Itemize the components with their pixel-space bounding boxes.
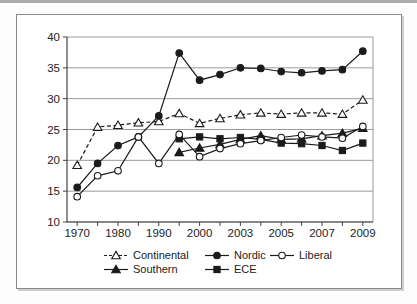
scan-edge-artifact (0, 0, 417, 3)
svg-text:1990: 1990 (146, 227, 172, 239)
legend-item-liberal: Liberal (269, 249, 332, 261)
svg-text:35: 35 (47, 62, 60, 74)
svg-text:1980: 1980 (105, 227, 131, 239)
legend-label-nordic: Nordic (234, 249, 266, 261)
markers-southern (175, 124, 367, 155)
svg-text:10: 10 (47, 216, 60, 228)
legend-label-ece: ECE (234, 263, 257, 275)
markers-liberal (74, 123, 366, 200)
series-lines (73, 48, 367, 200)
svg-text:2000: 2000 (187, 227, 213, 239)
legend-item-continental: Continental (103, 249, 189, 261)
legend-label-southern: Southern (133, 263, 178, 275)
ece-filled-square-icon (204, 264, 230, 275)
southern-filled-triangle-icon (103, 264, 129, 275)
svg-text:2007: 2007 (309, 227, 335, 239)
liberal-open-circle-icon (269, 250, 295, 261)
nordic-filled-circle-icon (204, 250, 230, 261)
legend-label-liberal: Liberal (299, 249, 332, 261)
legend-item-nordic: Nordic (204, 249, 266, 261)
svg-text:40: 40 (47, 31, 60, 43)
svg-text:2005: 2005 (268, 227, 294, 239)
svg-text:15: 15 (47, 185, 60, 197)
legend-item-southern: Southern (103, 263, 178, 275)
chart-figure: 1015202530354019701980199020002003200520… (16, 14, 402, 289)
svg-text:2009: 2009 (350, 227, 376, 239)
legend-label-continental: Continental (133, 249, 189, 261)
svg-text:25: 25 (47, 124, 60, 136)
axes (63, 37, 373, 226)
legend-item-ece: ECE (204, 263, 257, 275)
screenshot-root: 1015202530354019701980199020002003200520… (0, 0, 417, 304)
chart-svg: 1015202530354019701980199020002003200520… (17, 15, 401, 288)
series-continental (77, 100, 363, 165)
svg-text:2003: 2003 (228, 227, 254, 239)
gridlines (67, 37, 373, 222)
svg-text:20: 20 (47, 154, 60, 166)
svg-text:1970: 1970 (64, 227, 90, 239)
continental-dashed-triangle-icon (103, 250, 129, 261)
svg-text:30: 30 (47, 93, 60, 105)
